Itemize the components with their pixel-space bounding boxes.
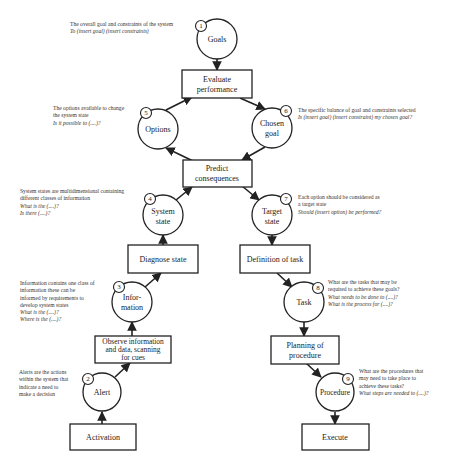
node-information: Infor- mation 3 — [112, 282, 152, 323]
svg-text:9: 9 — [346, 375, 350, 383]
node-options-label: Options — [145, 125, 170, 134]
svg-text:Execute: Execute — [322, 433, 348, 442]
node-goals-label: Goals — [208, 35, 227, 44]
svg-text:8: 8 — [316, 284, 320, 292]
svg-text:state: state — [265, 217, 280, 226]
annotation-target-state: Each option should be considered as a ta… — [298, 194, 381, 216]
node-task: Task 8 — [284, 282, 324, 322]
svg-text:6: 6 — [284, 107, 288, 115]
edge-predict-to-options — [166, 148, 193, 161]
svg-text:performance: performance — [197, 85, 238, 94]
svg-text:procedure: procedure — [289, 351, 321, 360]
svg-text:Activation: Activation — [86, 433, 120, 442]
box-diagnose-state: Diagnose state — [128, 245, 198, 273]
edge-options-to-evaluate — [166, 97, 192, 110]
svg-text:Planning of: Planning of — [286, 341, 323, 350]
box-observe-information: Observe information and data, scanning f… — [95, 336, 171, 363]
annotation-alert: Alerts are the actions within the system… — [19, 369, 68, 398]
svg-text:Definition of task: Definition of task — [247, 255, 303, 264]
edge-system-state-to-predict — [176, 187, 192, 200]
svg-text:state: state — [156, 217, 171, 226]
svg-text:2: 2 — [86, 375, 90, 383]
svg-text:Procedure: Procedure — [320, 388, 351, 397]
edge-predict-to-target-state — [242, 186, 259, 200]
svg-text:goal: goal — [265, 129, 280, 138]
svg-text:Target: Target — [262, 207, 283, 216]
annotation-task: What are the tasks that may be required … — [328, 279, 399, 308]
svg-text:3: 3 — [117, 283, 121, 291]
svg-text:Predict: Predict — [206, 164, 229, 173]
annotation-chosen-goal: The specific balance of goal and constra… — [298, 107, 416, 122]
node-procedure: Procedure 9 — [316, 373, 354, 411]
edge-definition-to-task — [277, 273, 292, 287]
svg-text:mation: mation — [121, 303, 143, 312]
box-evaluate-performance: Evaluate performance — [182, 70, 252, 98]
svg-text:Diagnose state: Diagnose state — [140, 255, 187, 264]
svg-text:5: 5 — [144, 109, 148, 117]
svg-text:System: System — [151, 207, 175, 216]
edge-chosen-goal-to-predict — [242, 147, 265, 160]
annotation-goals: The overall goal and constraints of the … — [70, 21, 173, 36]
box-execute: Execute — [302, 424, 369, 450]
node-chosen-goal: Chosen goal 6 — [252, 106, 292, 149]
box-activation: Activation — [70, 424, 136, 450]
box-definition-of-task: Definition of task — [240, 245, 310, 273]
edge-information-to-diagnose — [145, 273, 161, 287]
svg-text:Alert: Alert — [94, 388, 111, 397]
svg-text:7: 7 — [284, 195, 288, 203]
box-planning-of-procedure: Planning of procedure — [271, 336, 339, 364]
svg-text:Evaluate: Evaluate — [203, 75, 231, 84]
svg-text:Infor-: Infor- — [123, 293, 142, 302]
annotation-options: The options available to change the syst… — [53, 105, 124, 127]
edge-evaluate-to-chosen-goal — [240, 98, 265, 109]
node-alert: Alert 2 — [83, 373, 122, 411]
svg-text:for cues: for cues — [121, 353, 145, 362]
edge-planning-to-procedure — [306, 363, 321, 377]
node-goals: Goals 1 — [196, 19, 238, 59]
edge-alert-to-observe — [115, 363, 130, 377]
box-predict-consequences: Predict consequences — [183, 160, 252, 187]
svg-text:Task: Task — [297, 298, 312, 307]
svg-text:consequences: consequences — [195, 174, 239, 183]
decision-ladder-diagram: Goals 1 Options 5 Chosen goal 6 System s… — [0, 0, 464, 469]
annotation-information: Information contains one class of inform… — [20, 280, 95, 324]
annotation-system-state: System states are multidimensional conta… — [20, 188, 124, 217]
svg-text:1: 1 — [199, 22, 203, 30]
svg-text:4: 4 — [148, 195, 152, 203]
svg-text:Chosen: Chosen — [260, 119, 284, 128]
node-options: Options 5 — [138, 108, 178, 150]
annotation-procedure: What are the procedures that may need to… — [359, 368, 429, 397]
